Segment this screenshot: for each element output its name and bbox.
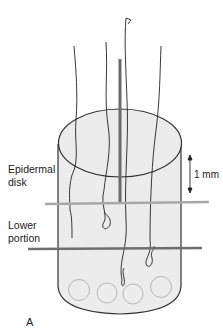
scale-label: 1 mm — [194, 168, 219, 181]
lower-label-line2: portion — [8, 232, 40, 245]
panel-label: A — [26, 316, 33, 329]
epidermal-disk-label: Epidermal disk — [8, 163, 55, 189]
lower-label-line1: Lower — [8, 219, 40, 232]
lower-section-line — [28, 248, 202, 249]
lower-portion-label: Lower portion — [8, 219, 40, 245]
scale-arrow — [188, 155, 192, 193]
epidermal-label-line1: Epidermal — [8, 163, 55, 176]
epidermal-label-line2: disk — [8, 176, 55, 189]
